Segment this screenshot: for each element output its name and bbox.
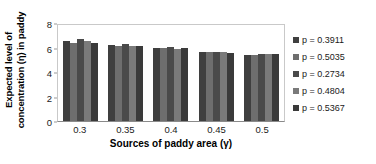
legend-label: p = 0.2734	[302, 69, 345, 79]
y-axis-title-line1: Expected level of	[3, 5, 15, 135]
legend: p = 0.3911p = 0.5035p = 0.2734p = 0.4804…	[293, 31, 375, 116]
y-tick-label: 8	[38, 19, 52, 30]
bar-group	[153, 25, 188, 121]
y-axis-title-line2: concentration (η) in paddy	[15, 5, 27, 135]
x-tick-label: 0.3	[60, 124, 100, 135]
legend-label: p = 0.5367	[302, 103, 345, 113]
x-axis-title: Sources of paddy area (γ)	[57, 138, 285, 149]
bar	[160, 48, 167, 121]
x-tick-label: 0.4	[151, 124, 191, 135]
bar-chart: Expected level of concentration (η) in p…	[0, 0, 376, 164]
bar	[84, 41, 91, 121]
bar-group	[199, 25, 234, 121]
bar	[265, 54, 272, 121]
bar	[91, 43, 98, 121]
bar	[153, 48, 160, 122]
bar	[258, 54, 265, 121]
bar	[122, 44, 129, 121]
legend-label: p = 0.3911	[302, 35, 344, 45]
x-tick-label: 0.35	[105, 124, 145, 135]
bar	[63, 41, 70, 121]
y-tick-mark	[54, 97, 57, 98]
bar	[115, 46, 122, 121]
legend-swatch-icon	[293, 71, 299, 77]
bar	[129, 46, 136, 121]
legend-item: p = 0.5367	[293, 99, 375, 116]
y-axis-ticks: 02468	[38, 24, 52, 122]
y-tick-label: 6	[38, 43, 52, 54]
bar	[167, 47, 174, 121]
bar	[77, 39, 84, 121]
y-tick-mark	[54, 73, 57, 74]
legend-swatch-icon	[293, 54, 299, 60]
bar-group	[63, 25, 98, 121]
bar-group	[108, 25, 143, 121]
bar	[220, 52, 227, 121]
y-axis-title: Expected level of concentration (η) in p…	[3, 5, 39, 135]
y-tick-label: 4	[38, 68, 52, 79]
y-tick-mark	[54, 24, 57, 25]
bar	[181, 48, 188, 121]
x-tick-label: 0.45	[197, 124, 237, 135]
x-tick-label: 0.5	[242, 124, 282, 135]
bar	[213, 52, 220, 121]
bar	[244, 55, 251, 121]
legend-label: p = 0.4804	[302, 86, 345, 96]
bar	[206, 52, 213, 121]
bar	[227, 53, 234, 121]
legend-item: p = 0.4804	[293, 82, 375, 99]
y-tick-mark	[54, 48, 57, 49]
bar	[199, 52, 206, 121]
legend-swatch-icon	[293, 37, 299, 43]
bar	[251, 55, 258, 121]
legend-item: p = 0.3911	[293, 31, 375, 48]
y-tick-label: 0	[38, 117, 52, 128]
bar	[136, 46, 143, 121]
legend-swatch-icon	[293, 105, 299, 111]
legend-item: p = 0.2734	[293, 65, 375, 82]
legend-item: p = 0.5035	[293, 48, 375, 65]
x-axis-ticks: 0.30.350.40.450.5	[57, 124, 285, 135]
legend-swatch-icon	[293, 88, 299, 94]
bar	[108, 45, 115, 121]
legend-label: p = 0.5035	[302, 52, 345, 62]
bar	[70, 43, 77, 121]
y-tick-mark	[54, 122, 57, 123]
bar-groups	[58, 25, 284, 121]
plot-area	[57, 24, 285, 122]
bar	[272, 54, 279, 121]
bar	[174, 49, 181, 121]
y-tick-label: 2	[38, 92, 52, 103]
bar-group	[244, 25, 279, 121]
